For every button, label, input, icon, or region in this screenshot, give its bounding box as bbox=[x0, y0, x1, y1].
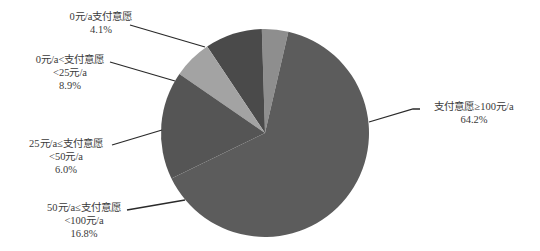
label-100-plus-pct: 64.2% bbox=[418, 113, 530, 126]
leader-line-2 bbox=[112, 130, 162, 145]
label-0-25-pct: 8.9% bbox=[30, 79, 110, 92]
label-0-25: 0元/a<支付意愿 <25元/a 8.9% bbox=[30, 53, 110, 92]
label-100-plus: 支付意愿≥100元/a 64.2% bbox=[418, 100, 530, 126]
label-50-100-range: <100元/a bbox=[38, 214, 130, 227]
label-50-100-pct: 16.8% bbox=[38, 227, 130, 240]
label-25-50-pct: 6.0% bbox=[20, 163, 112, 176]
label-50-100-text: 50元/a≤支付意愿 bbox=[38, 201, 130, 214]
label-100-plus-text: 支付意愿≥100元/a bbox=[418, 100, 530, 113]
leader-line-3 bbox=[127, 200, 185, 210]
label-25-50-range: <50元/a bbox=[20, 150, 112, 163]
leader-line-0 bbox=[130, 25, 205, 47]
label-0-25-text: 0元/a<支付意愿 bbox=[30, 53, 110, 66]
label-zero-pct: 4.1% bbox=[62, 23, 140, 36]
label-50-100: 50元/a≤支付意愿 <100元/a 16.8% bbox=[38, 201, 130, 240]
label-0-25-range: <25元/a bbox=[30, 66, 110, 79]
label-zero-text: 0元/a支付意愿 bbox=[62, 10, 140, 23]
pie-slices bbox=[161, 29, 369, 237]
leader-line-1 bbox=[110, 62, 175, 81]
label-25-50-text: 25元/a≤支付意愿 bbox=[20, 137, 112, 150]
label-25-50: 25元/a≤支付意愿 <50元/a 6.0% bbox=[20, 137, 112, 176]
label-zero: 0元/a支付意愿 4.1% bbox=[62, 10, 140, 36]
leader-line-4 bbox=[369, 109, 420, 122]
